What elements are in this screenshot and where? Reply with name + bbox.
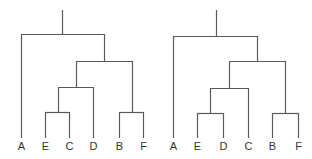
left-dendrogram: AECDBF: [18, 10, 147, 152]
dendrogram-comparison: AECDBF AEDCBF: [0, 0, 312, 159]
leaf-label-b: B: [269, 140, 276, 152]
leaf-label-d: D: [90, 140, 98, 152]
leaf-label-e: E: [42, 140, 49, 152]
leaf-label-c: C: [66, 140, 74, 152]
right-dendrogram: AEDCBF: [170, 10, 302, 152]
leaf-label-d: D: [220, 140, 228, 152]
leaf-label-a: A: [18, 140, 26, 152]
leaf-label-f: F: [295, 140, 302, 152]
leaf-label-f: F: [140, 140, 147, 152]
leaf-label-c: C: [245, 140, 253, 152]
leaf-label-a: A: [170, 140, 178, 152]
leaf-label-e: E: [194, 140, 201, 152]
leaf-label-b: B: [116, 140, 123, 152]
